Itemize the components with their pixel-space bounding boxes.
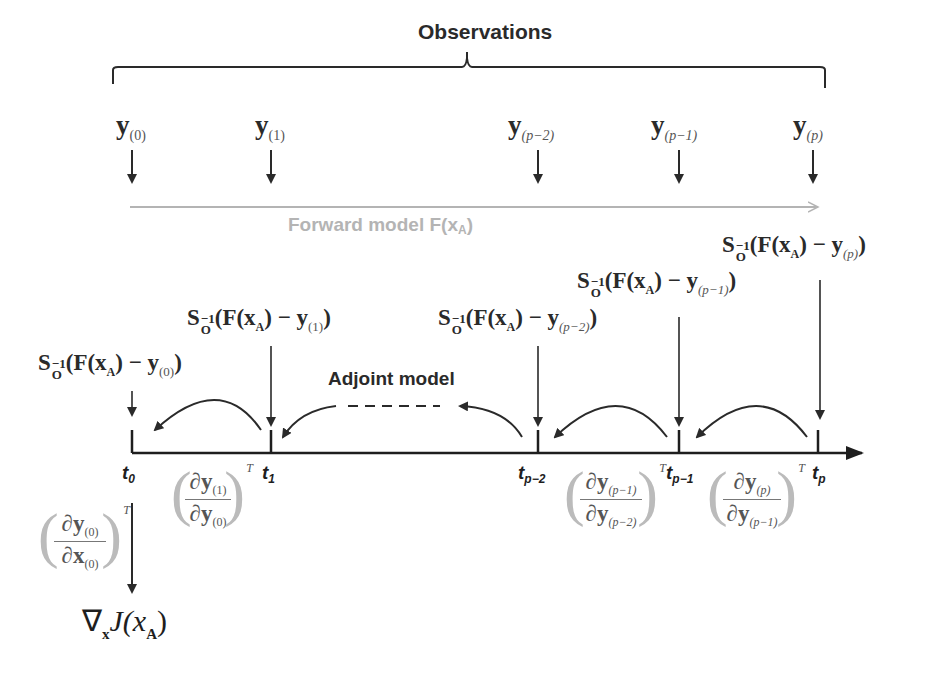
- time-label-tp: tp: [812, 462, 826, 486]
- time-axis: [132, 430, 862, 453]
- observation-arrows: [132, 150, 813, 182]
- adjoint-arrows: [155, 400, 807, 437]
- time-label-tp-2: tp−2: [518, 462, 545, 486]
- innovation-1: S−1O(F(xA) − y(1)): [187, 305, 331, 335]
- observations-title: Observations: [418, 20, 552, 44]
- observation-yp-2: y(p−2): [508, 110, 554, 144]
- 4dvar-adjoint-diagram: Observations y(0) y(1) y(p−2) y(p−1) y(p…: [0, 0, 940, 673]
- innovation-0: S−1O(F(xA) − y(0)): [38, 350, 182, 380]
- forward-model-label: Forward model F(xA): [288, 214, 473, 237]
- jacobian-dyp-dyp-1: () ∂y(p) ∂y(p−1) T: [709, 463, 795, 535]
- observations-brace: [113, 52, 825, 88]
- jacobian-dy0-dx0: () ∂y(0) ∂x(0) T: [40, 505, 120, 575]
- time-label-t1: t1: [262, 462, 275, 486]
- observation-y0: y(0): [116, 110, 146, 144]
- innovation-arrows: [132, 280, 820, 425]
- time-label-tp-1: tp−1: [666, 462, 693, 486]
- diagram-lines: [0, 0, 940, 673]
- observation-yp-1: y(p−1): [651, 110, 697, 144]
- gradient-of-cost: ∇xJ(xA): [82, 603, 167, 643]
- innovation-p-1: S−1O(F(xA) − y(p−1)): [577, 268, 736, 298]
- innovation-p: S−1O(F(xA) − y(p)): [722, 232, 866, 262]
- jacobian-dyp-1-dyp-2: () ∂y(p−1) ∂y(p−2) T: [566, 463, 656, 533]
- observation-y1: y(1): [255, 110, 285, 144]
- time-label-t0: t0: [122, 462, 135, 486]
- innovation-p-2: S−1O(F(xA) − y(p−2)): [438, 305, 597, 335]
- jacobian-dy1-dy0: () ∂y(1) ∂y(0) T: [173, 463, 243, 533]
- observation-yp: y(p): [793, 110, 823, 144]
- adjoint-model-label: Adjoint model: [328, 368, 455, 390]
